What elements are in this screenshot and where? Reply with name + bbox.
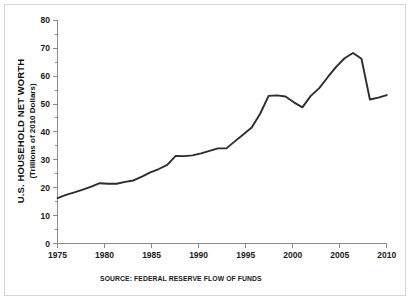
y-tick-label-0: 0 — [45, 239, 50, 249]
y-axis-title-group: U.S. HOUSEHOLD NET WORTH (Trillions of 2… — [15, 59, 37, 203]
x-tick-label-1975: 1975 — [48, 250, 67, 260]
y-tick-label-10: 10 — [41, 211, 51, 221]
y-tick-label-50: 50 — [41, 99, 51, 109]
data-line-household-net-worth — [58, 53, 387, 198]
y-axis-title-main: U.S. HOUSEHOLD NET WORTH — [15, 59, 26, 203]
y-axis-title-sub: (Trillions of 2010 Dollars) — [28, 83, 37, 178]
y-tick-label-60: 60 — [41, 71, 51, 81]
chart-figure: U.S. HOUSEHOLD NET WORTH (Trillions of 2… — [0, 0, 410, 300]
x-tick-label-1995: 1995 — [236, 250, 255, 260]
x-tick-label-2000: 2000 — [283, 250, 302, 260]
x-tick-label-1980: 1980 — [95, 250, 114, 260]
y-axis-ticks: 0 10 20 30 40 50 60 70 80 — [41, 15, 58, 248]
y-tick-label-20: 20 — [41, 183, 51, 193]
source-note: SOURCE: FEDERAL RESERVE FLOW OF FUNDS — [100, 275, 262, 282]
x-axis-ticks: 1975 1980 1985 1990 1995 2000 2005 2010 — [48, 244, 396, 261]
x-tick-label-1985: 1985 — [142, 250, 161, 260]
x-tick-label-1990: 1990 — [189, 250, 208, 260]
y-tick-label-40: 40 — [41, 127, 51, 137]
y-tick-label-30: 30 — [41, 155, 51, 165]
y-tick-label-80: 80 — [41, 15, 51, 25]
y-tick-label-70: 70 — [41, 43, 51, 53]
x-tick-label-2005: 2005 — [330, 250, 349, 260]
x-tick-label-2010: 2010 — [377, 250, 396, 260]
household-net-worth-line-chart: U.S. HOUSEHOLD NET WORTH (Trillions of 2… — [0, 0, 410, 300]
